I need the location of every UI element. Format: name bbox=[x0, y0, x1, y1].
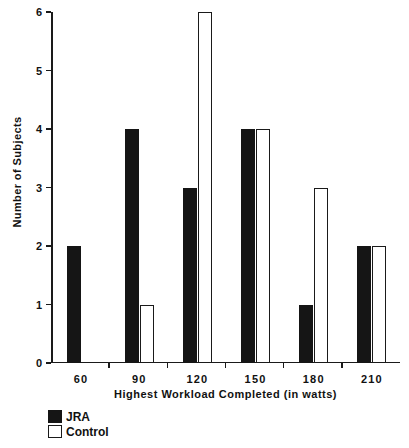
y-axis-tick-label: 1 bbox=[36, 299, 42, 310]
x-axis-title: Highest Workload Completed (in watts) bbox=[51, 388, 400, 400]
y-axis-tick-label: 3 bbox=[36, 182, 42, 193]
y-axis-tick-label: 2 bbox=[36, 241, 42, 252]
x-axis-tick bbox=[283, 363, 285, 368]
bar-jra-180 bbox=[299, 305, 313, 364]
bar-jra-120 bbox=[183, 188, 197, 364]
x-axis-tick-label: 120 bbox=[186, 373, 208, 385]
x-axis-tick-label: 150 bbox=[245, 373, 267, 385]
bar-control-210 bbox=[372, 246, 386, 363]
filled-square-icon bbox=[48, 410, 62, 423]
legend-item-jra: JRA bbox=[48, 409, 109, 424]
y-axis-tick: 2 bbox=[46, 245, 51, 247]
legend-label-control: Control bbox=[66, 426, 109, 438]
x-axis-tick-label: 210 bbox=[361, 373, 383, 385]
legend-label-jra: JRA bbox=[66, 411, 90, 423]
open-square-icon bbox=[48, 425, 62, 438]
bar-control-150 bbox=[256, 129, 270, 363]
y-axis-title: Number of Subjects bbox=[11, 92, 23, 252]
bar-control-90 bbox=[140, 305, 154, 364]
x-axis-tick bbox=[108, 363, 110, 368]
x-axis-tick bbox=[167, 363, 169, 368]
bar-jra-150 bbox=[241, 129, 255, 363]
chart-legend: JRA Control bbox=[48, 409, 109, 439]
y-axis-tick-label: 0 bbox=[36, 358, 42, 369]
y-axis-tick-label: 6 bbox=[36, 7, 42, 18]
plot-area: 01234566090120150180210 bbox=[51, 12, 400, 363]
bar-control-180 bbox=[314, 188, 328, 364]
x-axis-tick-label: 90 bbox=[132, 373, 147, 385]
x-axis-tick bbox=[341, 363, 343, 368]
x-axis-tick-label: 180 bbox=[303, 373, 325, 385]
bar-jra-90 bbox=[125, 129, 139, 363]
y-axis-tick-label: 5 bbox=[36, 65, 42, 76]
y-axis-tick: 4 bbox=[46, 128, 51, 130]
x-axis-tick bbox=[225, 363, 227, 368]
y-axis-tick: 3 bbox=[46, 187, 51, 189]
bar-jra-60 bbox=[67, 246, 81, 363]
y-axis-tick-label: 4 bbox=[36, 124, 42, 135]
bar-jra-210 bbox=[357, 246, 371, 363]
y-axis-tick: 0 bbox=[46, 362, 51, 364]
x-axis-tick-label: 60 bbox=[74, 373, 89, 385]
bar-control-120 bbox=[198, 12, 212, 363]
y-axis-tick: 5 bbox=[46, 70, 51, 72]
y-axis-line bbox=[51, 12, 53, 363]
legend-item-control: Control bbox=[48, 424, 109, 439]
y-axis-tick: 1 bbox=[46, 304, 51, 306]
bar-chart-figure: Number of Subjects 012345660901201501802… bbox=[0, 0, 409, 448]
y-axis-tick: 6 bbox=[46, 11, 51, 13]
